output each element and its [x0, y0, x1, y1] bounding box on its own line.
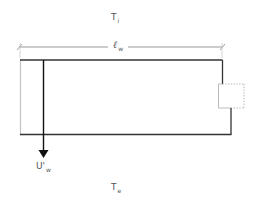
- outside-temperature-label: Te: [111, 183, 121, 192]
- wall-length-subscript: w: [118, 45, 123, 52]
- wall-length-label: ℓw: [113, 40, 123, 50]
- u-value-symbol: U': [36, 161, 45, 171]
- inside-temperature-symbol: T: [111, 12, 117, 22]
- opening-box: [219, 84, 245, 108]
- wall-length-symbol: ℓ: [113, 39, 117, 50]
- outside-temperature-subscript: e: [118, 187, 122, 194]
- outside-temperature-symbol: T: [111, 182, 117, 192]
- inside-temperature-subscript: i: [118, 17, 120, 24]
- wall-heat-loss-diagram: Ti ℓw U'w Te: [0, 0, 255, 206]
- inside-temperature-label: Ti: [111, 13, 119, 22]
- heat-flow-arrow-icon: [39, 60, 49, 158]
- diagram-graphics: [0, 0, 255, 206]
- u-value-label: U'w: [36, 162, 51, 171]
- u-value-subscript: w: [46, 166, 51, 173]
